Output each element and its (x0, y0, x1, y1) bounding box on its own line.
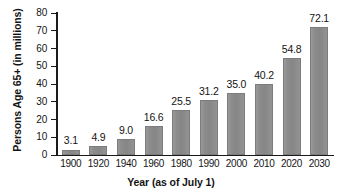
y-axis-tick-label: 50 (7, 61, 47, 71)
y-axis-tick-label: 30 (7, 97, 47, 107)
y-axis-tick-label: 80 (7, 8, 47, 18)
bar-value-label: 16.6 (132, 112, 176, 123)
bar (62, 150, 80, 156)
y-axis-tick-label: 20 (7, 115, 47, 125)
y-axis-tick-label: 10 (7, 132, 47, 142)
y-axis-tick-label: 70 (7, 26, 47, 36)
bar (200, 100, 218, 155)
bar-value-label: 40.2 (242, 70, 286, 81)
y-axis-tick-label: 40 (7, 79, 47, 89)
bar (89, 146, 107, 155)
y-axis-tick-label: 60 (7, 44, 47, 54)
y-axis-tick-label: 0 (7, 150, 47, 160)
bar (255, 84, 273, 155)
bar-value-label: 54.8 (270, 44, 314, 55)
bar (227, 93, 245, 155)
bar-value-label: 9.0 (104, 125, 148, 136)
bar-value-label: 72.1 (297, 13, 341, 24)
x-axis-tick-label: 2030 (299, 158, 339, 169)
bar-value-label: 25.5 (159, 96, 203, 107)
x-axis-title: Year (as of July 1) (0, 176, 342, 188)
bar-chart: Persons Age 65+ (in millions) 0102030405… (0, 0, 342, 196)
